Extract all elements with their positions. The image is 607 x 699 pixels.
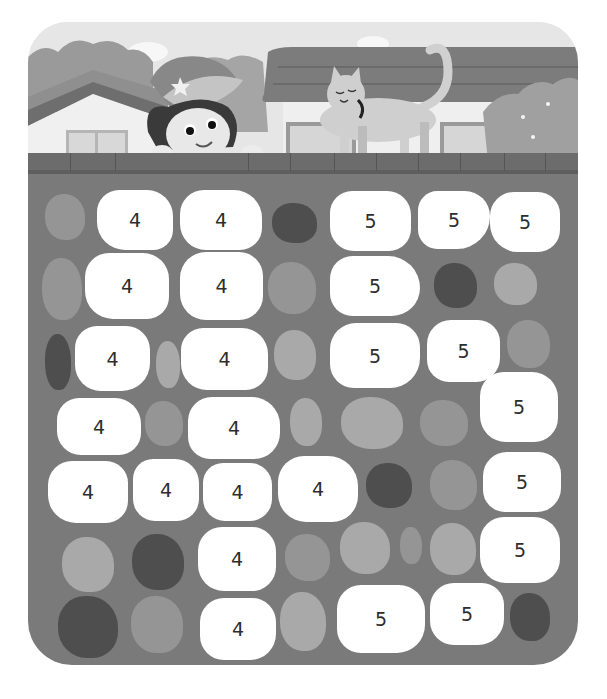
- brick-joint: [376, 153, 377, 171]
- decorative-stone: [58, 596, 118, 658]
- brick-joint: [418, 153, 419, 171]
- stone-number: 4: [312, 478, 324, 500]
- stepping-stone-5[interactable]: 5: [330, 323, 420, 388]
- brick-joint: [545, 153, 546, 171]
- decorative-stone: [400, 527, 422, 564]
- stone-number: 5: [519, 211, 531, 233]
- decorative-stone: [132, 534, 184, 590]
- brick-joint: [460, 153, 461, 171]
- decorative-stone: [268, 262, 316, 314]
- decorative-stone: [145, 401, 183, 446]
- stone-number: 4: [82, 481, 94, 503]
- stone-number: 5: [516, 471, 528, 493]
- scene-artwork: [28, 22, 578, 162]
- decorative-stone: [45, 334, 71, 390]
- decorative-stone: [131, 596, 183, 653]
- stepping-stone-5[interactable]: 5: [430, 583, 504, 645]
- stepping-stone-4[interactable]: 4: [181, 328, 268, 390]
- stepping-stone-4[interactable]: 4: [133, 459, 199, 521]
- stepping-stone-4[interactable]: 4: [203, 463, 272, 521]
- decorative-stone: [510, 593, 550, 641]
- stepping-stone-5[interactable]: 5: [418, 191, 490, 249]
- stepping-stone-4[interactable]: 4: [278, 456, 358, 522]
- stepping-stone-5[interactable]: 5: [330, 191, 411, 251]
- stepping-stone-4[interactable]: 4: [97, 190, 173, 250]
- decorative-stone: [62, 537, 114, 592]
- stepping-stone-5[interactable]: 5: [480, 372, 558, 442]
- decorative-stone: [366, 463, 412, 508]
- decorative-stone: [340, 522, 390, 574]
- stone-number: 4: [129, 209, 141, 231]
- stone-number: 4: [215, 275, 227, 297]
- brick-joint: [504, 153, 505, 171]
- stone-number: 4: [121, 275, 133, 297]
- stepping-stone-4[interactable]: 4: [180, 190, 262, 250]
- stepping-stone-5[interactable]: 5: [480, 517, 560, 583]
- stepping-stone-4[interactable]: 4: [180, 252, 263, 320]
- stone-number: 5: [369, 275, 381, 297]
- stepping-stone-4[interactable]: 4: [200, 598, 276, 660]
- stone-number: 4: [231, 481, 243, 503]
- decorative-stone: [272, 203, 317, 243]
- decorative-stone: [507, 320, 550, 368]
- brick-joint: [248, 153, 249, 171]
- decorative-stone: [274, 330, 316, 380]
- stone-number: 4: [231, 548, 243, 570]
- stone-number: 4: [106, 348, 118, 370]
- stepping-stone-4[interactable]: 4: [198, 527, 276, 591]
- stone-number: 5: [448, 209, 460, 231]
- stone-number: 5: [375, 608, 387, 630]
- decorative-stone: [430, 460, 477, 510]
- stepping-stone-5[interactable]: 5: [427, 320, 500, 382]
- stone-number: 4: [93, 416, 105, 438]
- decorative-stone: [341, 397, 403, 449]
- decorative-stone: [430, 523, 476, 575]
- decorative-stone: [42, 258, 82, 320]
- stepping-stone-5[interactable]: 5: [483, 452, 561, 512]
- brick-wall-cap: [28, 170, 578, 174]
- stepping-stone-4[interactable]: 4: [48, 461, 128, 523]
- illustration-scene: [28, 22, 578, 162]
- stepping-stone-4[interactable]: 4: [75, 326, 150, 391]
- stone-number: 4: [215, 209, 227, 231]
- stone-number: 4: [232, 618, 244, 640]
- brick-joint: [115, 153, 116, 171]
- stone-number: 5: [364, 210, 376, 232]
- decorative-stone: [420, 400, 468, 446]
- decorative-stone: [434, 263, 477, 308]
- decorative-stone: [45, 194, 85, 240]
- stepping-stone-4[interactable]: 4: [188, 397, 280, 459]
- stepping-stone-4[interactable]: 4: [57, 398, 141, 455]
- decorative-stone: [285, 534, 330, 581]
- brick-joint: [70, 153, 71, 171]
- decorative-stone: [280, 592, 326, 651]
- stone-number: 4: [160, 479, 172, 501]
- stone-number: 5: [457, 340, 469, 362]
- decorative-stone: [494, 263, 537, 305]
- brick-joint: [290, 153, 291, 171]
- stepping-stone-5[interactable]: 5: [490, 192, 560, 252]
- stone-number: 5: [513, 396, 525, 418]
- stepping-stone-4[interactable]: 4: [85, 253, 169, 319]
- stepping-stone-5[interactable]: 5: [337, 585, 425, 653]
- decorative-stone: [290, 398, 322, 446]
- stone-number: 5: [461, 603, 473, 625]
- stepping-stone-5[interactable]: 5: [330, 256, 420, 316]
- decorative-stone: [156, 341, 180, 388]
- stone-number: 5: [369, 345, 381, 367]
- stone-number: 4: [218, 348, 230, 370]
- stone-number: 4: [228, 417, 240, 439]
- stone-number: 5: [514, 539, 526, 561]
- brick-joint: [334, 153, 335, 171]
